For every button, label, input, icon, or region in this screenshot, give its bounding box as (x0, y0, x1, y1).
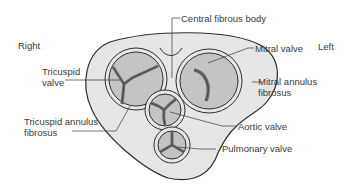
mitral-annulus-label-line2: fibrosus (258, 87, 291, 98)
orientation-left-label: Left (318, 41, 334, 52)
tricuspid-valve-label-line2: valve (42, 77, 64, 88)
tricuspid-annulus-label-line1: Tricuspid annulus (24, 116, 98, 127)
aortic-valve (145, 90, 185, 130)
heart-valves-diagram (0, 0, 356, 187)
pulmonary-valve (154, 127, 190, 163)
central-fibrous-body-label: Central fibrous body (181, 13, 266, 24)
tricuspid-annulus-label-line2: fibrosus (24, 127, 57, 138)
tricuspid-valve-label-line1: Tricuspid (42, 66, 80, 77)
orientation-right-label: Right (18, 40, 40, 51)
mitral-annulus-label-line1: Mitral annulus (258, 76, 317, 87)
mitral-valve (176, 49, 242, 113)
mitral-valve-label: Mitral valve (255, 43, 303, 54)
aortic-valve-label: Aortic valve (238, 121, 287, 132)
pulmonary-valve-label: Pulmonary valve (222, 143, 292, 154)
